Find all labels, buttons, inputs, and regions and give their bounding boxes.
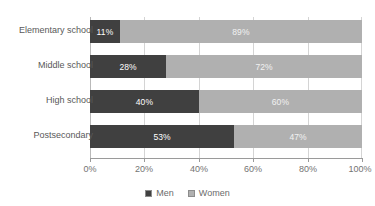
x-axis-line — [90, 158, 363, 159]
bar-segment-men[interactable]: 40% — [90, 90, 199, 113]
x-tick-label-100: 100% — [348, 164, 371, 174]
plot-area: 11% 89% 28% 72% 40% 60% 53% 47% — [90, 17, 362, 158]
x-tick-label-20: 20% — [135, 164, 153, 174]
bar-segment-women[interactable]: 89% — [120, 20, 362, 43]
chart-title — [4, 0, 244, 5]
legend-label-men: Men — [156, 188, 174, 198]
bar-row-postsecondary[interactable]: 53% 47% — [90, 125, 362, 148]
x-tick-mark-0 — [90, 158, 91, 162]
x-tick-label-80: 80% — [299, 164, 317, 174]
category-label-elementary-school: Elementary school — [0, 25, 93, 35]
legend-swatch-icon-women — [188, 190, 195, 197]
x-tick-mark-60 — [253, 158, 254, 162]
stacked-bar-chart: 11% 89% 28% 72% 40% 60% 53% 47% Elementa… — [0, 0, 375, 206]
bar-row-high-school[interactable]: 40% 60% — [90, 90, 362, 113]
x-tick-mark-20 — [144, 158, 145, 162]
chart-legend: Men Women — [0, 188, 375, 198]
category-label-middle-school: Middle school — [0, 60, 93, 70]
category-label-high-school: High school — [0, 95, 93, 105]
x-tick-label-0: 0% — [83, 164, 96, 174]
legend-item-women[interactable]: Women — [188, 188, 230, 198]
x-tick-mark-100 — [362, 158, 363, 162]
bar-segment-men[interactable]: 53% — [90, 125, 234, 148]
bar-segment-women[interactable]: 60% — [199, 90, 362, 113]
bar-segment-women[interactable]: 72% — [166, 55, 362, 78]
legend-label-women: Women — [199, 188, 230, 198]
x-tick-label-60: 60% — [244, 164, 262, 174]
x-tick-mark-40 — [199, 158, 200, 162]
x-tick-mark-80 — [308, 158, 309, 162]
bar-segment-women[interactable]: 47% — [234, 125, 362, 148]
bar-segment-men[interactable]: 28% — [90, 55, 166, 78]
bar-row-middle-school[interactable]: 28% 72% — [90, 55, 362, 78]
category-label-postsecondary: Postsecondary — [0, 130, 93, 140]
legend-item-men[interactable]: Men — [145, 188, 174, 198]
x-tick-label-40: 40% — [190, 164, 208, 174]
legend-swatch-icon-men — [145, 190, 152, 197]
bar-segment-men[interactable]: 11% — [90, 20, 120, 43]
bar-row-elementary-school[interactable]: 11% 89% — [90, 20, 362, 43]
